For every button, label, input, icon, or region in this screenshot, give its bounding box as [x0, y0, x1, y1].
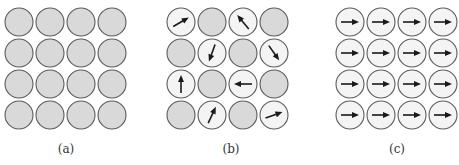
atom-circle — [5, 8, 33, 36]
dipole-circle — [229, 8, 257, 36]
atom-circle — [36, 39, 64, 67]
dipole-circle — [367, 8, 395, 36]
panel-label-a: (a) — [46, 142, 86, 156]
dipole-circle — [398, 101, 426, 129]
dipole-circle — [429, 70, 457, 98]
atom-circle — [229, 39, 257, 67]
atom-circle — [98, 70, 126, 98]
dipole-circle — [367, 39, 395, 67]
dipole-circle — [429, 101, 457, 129]
dipole-circle — [367, 70, 395, 98]
dipole-circle — [198, 101, 226, 129]
atom-circle — [36, 70, 64, 98]
dipole-circle — [229, 70, 257, 98]
dipole-circle — [336, 70, 364, 98]
atom-circle — [260, 70, 288, 98]
atom-circle — [98, 101, 126, 129]
dipole-circle — [398, 70, 426, 98]
dipole-circle — [398, 8, 426, 36]
atom-circle — [198, 8, 226, 36]
dipole-circle — [336, 101, 364, 129]
atom-circle — [67, 70, 95, 98]
atom-circle — [98, 8, 126, 36]
panel-label-c: (c) — [377, 142, 417, 156]
atom-circle — [98, 39, 126, 67]
atom-circle — [36, 8, 64, 36]
dipole-diagram: (a) (b) (c) — [0, 0, 459, 165]
dipole-circle — [167, 8, 195, 36]
dipole-circle — [167, 70, 195, 98]
panel-b — [167, 8, 288, 129]
atom-circle — [36, 101, 64, 129]
dipole-circle — [198, 39, 226, 67]
dipole-circle — [429, 39, 457, 67]
dipole-circle — [260, 101, 288, 129]
dipole-circle — [398, 39, 426, 67]
atom-circle — [167, 101, 195, 129]
dipole-circle — [367, 101, 395, 129]
atom-circle — [5, 39, 33, 67]
dipole-circle — [336, 39, 364, 67]
panel-label-b: (b) — [211, 142, 251, 156]
panel-c — [336, 8, 457, 129]
atom-circle — [167, 39, 195, 67]
atom-circle — [67, 101, 95, 129]
atom-circle — [67, 39, 95, 67]
atom-circle — [67, 8, 95, 36]
atom-circle — [260, 8, 288, 36]
atom-circle — [229, 101, 257, 129]
atom-circle — [198, 70, 226, 98]
panel-a — [5, 8, 126, 129]
dipole-circle — [336, 8, 364, 36]
dipole-grids — [0, 0, 459, 165]
atom-circle — [5, 101, 33, 129]
dipole-circle — [260, 39, 288, 67]
dipole-circle — [429, 8, 457, 36]
atom-circle — [5, 70, 33, 98]
